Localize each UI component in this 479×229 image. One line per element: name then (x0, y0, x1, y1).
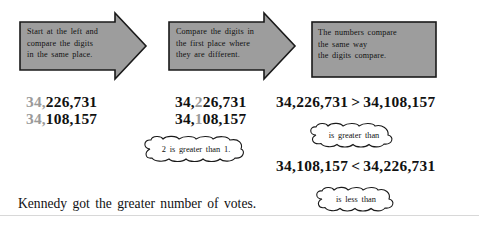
bubble-is-less-than: is less than (312, 186, 400, 212)
worksheet-canvas: Start at the left and compare the digits… (0, 0, 479, 229)
middle-number-row-1: 34,226,731 (175, 93, 246, 111)
comparison-2-right: 34,226,731 (363, 157, 435, 174)
middle-row-1-highlight-digit: 2 (195, 93, 203, 110)
comparison-greater-than: 34,226,731>34,108,157 (276, 93, 436, 111)
comparison-2-left: 34,108,157 (276, 157, 348, 174)
left-number-row-2: 34,108,157 (26, 110, 97, 128)
left-row-2-dim: 34, (26, 110, 46, 127)
bubble-is-less-than-label: is less than (312, 186, 400, 212)
bubble-is-greater-than-label: is greater than (306, 122, 402, 148)
comparison-2-operator: < (348, 157, 363, 174)
step-2-label: Compare the digits in the first place wh… (176, 26, 274, 61)
left-row-2-rest: 108,157 (46, 110, 97, 127)
middle-row-2-post: 08,157 (203, 110, 247, 127)
comparison-1-right: 34,108,157 (363, 93, 435, 110)
middle-row-2-pre: 34, (175, 110, 195, 127)
step-1-label: Start at the left and compare the digits… (27, 26, 121, 61)
comparison-less-than: 34,108,157<34,226,731 (276, 157, 436, 175)
left-number-row-1: 34,226,731 (26, 93, 97, 111)
comparison-1-operator: > (348, 93, 363, 110)
comparison-1-left: 34,226,731 (276, 93, 348, 110)
left-row-1-dim: 34, (26, 93, 46, 110)
footer-divider (0, 215, 479, 216)
bubble-is-greater-than: is greater than (306, 122, 402, 148)
footer-sentence: Kennedy got the greater number of votes. (18, 196, 256, 212)
middle-number-row-2: 34,108,157 (175, 110, 246, 128)
bubble-digit-compare-label: 2 is greater than 1. (139, 135, 253, 163)
step-3-label: The numbers compare the same way the dig… (318, 27, 430, 62)
middle-row-2-highlight-digit: 1 (195, 110, 203, 127)
middle-row-1-post: 26,731 (203, 93, 247, 110)
middle-row-1-pre: 34, (175, 93, 195, 110)
left-row-1-rest: 226,731 (46, 93, 97, 110)
bubble-digit-compare: 2 is greater than 1. (139, 135, 253, 163)
